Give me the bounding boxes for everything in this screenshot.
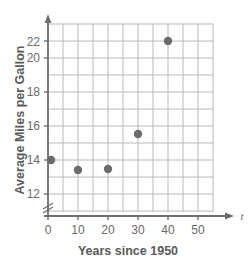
data-point	[164, 37, 172, 45]
grid-horizontal	[48, 24, 213, 211]
data-point	[104, 165, 112, 173]
y-tick-label: 16	[27, 119, 41, 133]
x-axis-variable-label: t	[240, 210, 244, 222]
grid-lines	[48, 24, 213, 212]
y-tick-label: 12	[27, 187, 41, 201]
y-tick-label: 18	[27, 85, 41, 99]
x-axis-arrow-icon	[225, 213, 234, 220]
scatter-plot-figure: 22 20 18 16 14 12 0 10 20 30 40 50 Avera…	[0, 0, 251, 268]
y-tick-label: 20	[27, 51, 41, 65]
chart-canvas: 22 20 18 16 14 12 0 10 20 30 40 50 Avera…	[0, 0, 251, 268]
x-tick-label: 10	[71, 223, 85, 237]
x-tick-label: 50	[191, 223, 205, 237]
x-tick-label: 0	[45, 223, 52, 237]
axis-ticks	[44, 41, 198, 220]
x-tick-labels: 0 10 20 30 40 50	[45, 223, 205, 237]
x-tick-label: 30	[131, 223, 145, 237]
data-point	[134, 130, 142, 138]
data-point	[74, 166, 82, 174]
y-tick-label: 14	[27, 153, 41, 167]
data-point	[47, 156, 55, 164]
y-tick-label: 22	[27, 35, 41, 49]
grid-vertical	[48, 24, 213, 212]
x-axis-title: Years since 1950	[78, 244, 178, 258]
y-axis-title: Average Miles per Gallon	[13, 46, 27, 195]
y-tick-labels: 22 20 18 16 14 12	[27, 35, 41, 201]
x-tick-label: 40	[161, 223, 175, 237]
y-axis-arrow-icon	[45, 14, 52, 23]
x-tick-label: 20	[101, 223, 115, 237]
